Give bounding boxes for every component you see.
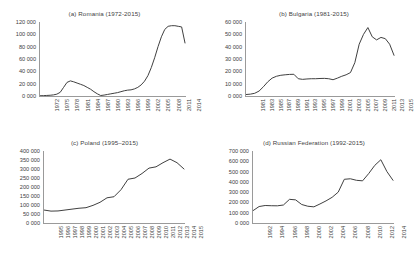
x-tick-label: 2005 bbox=[129, 226, 135, 238]
panel-bulgaria: (b) Bulgaria (1981-2015) 0 00010 00020 0… bbox=[209, 0, 419, 131]
y-tick-label: 0 000 bbox=[228, 93, 242, 99]
y-tick-label: 250 000 bbox=[20, 175, 40, 181]
y-tick-label: 40 000 bbox=[225, 44, 242, 50]
x-tick-label: 2000 bbox=[316, 226, 322, 238]
y-tick-label: 120 000 bbox=[16, 19, 36, 25]
y-tick-label: 350 000 bbox=[20, 157, 40, 163]
x-tick-label: 1999 bbox=[146, 99, 152, 111]
x-tick-label: 2011 bbox=[391, 99, 397, 111]
x-axis-line bbox=[252, 223, 394, 224]
x-tick-label: 1996 bbox=[136, 99, 142, 111]
y-tick-label: 150 000 bbox=[20, 193, 40, 199]
x-tick-label: 1995 bbox=[59, 226, 65, 238]
x-tick-label: 2009 bbox=[383, 99, 389, 111]
y-tick-label: 10 000 bbox=[225, 81, 242, 87]
x-tick-label: 1987 bbox=[287, 99, 293, 111]
y-tick-label: 0 000 bbox=[22, 93, 36, 99]
x-tick-label: 2008 bbox=[150, 226, 156, 238]
y-tick-label: 30 000 bbox=[225, 56, 242, 62]
panel-romania: (a) Romania (1972-2015) 0 00020 00040 00… bbox=[0, 0, 209, 131]
x-tick-label: 1993 bbox=[313, 99, 319, 111]
x-tick-label: 1992 bbox=[268, 226, 274, 238]
x-axis-line bbox=[39, 96, 186, 97]
x-tick-label: 2004 bbox=[341, 226, 347, 238]
x-tick-label: 1978 bbox=[75, 99, 81, 111]
x-tick-label: 1981 bbox=[85, 99, 91, 111]
x-tick-label: 1985 bbox=[278, 99, 284, 111]
x-tick-label: 1998 bbox=[304, 226, 310, 238]
x-tick-label: 2008 bbox=[365, 226, 371, 238]
x-tick-label: 2012 bbox=[178, 226, 184, 238]
panel-title-bulgaria: (b) Bulgaria (1981-2015) bbox=[209, 10, 419, 17]
x-tick-label: 1984 bbox=[95, 99, 101, 111]
x-tick-label: 2013 bbox=[400, 99, 406, 111]
y-tick-label: 0 000 bbox=[235, 220, 249, 226]
x-tick-label: 2014 bbox=[402, 226, 408, 238]
x-tick-label: 2015 bbox=[409, 99, 415, 111]
y-tick-label: 700 000 bbox=[229, 148, 249, 154]
y-tick-label: 0 000 bbox=[26, 220, 40, 226]
x-tick-label: 2000 bbox=[94, 226, 100, 238]
x-tick-label: 1975 bbox=[65, 99, 71, 111]
plot-area-poland: 0 00050 000100 000150 000200 000250 0003… bbox=[44, 151, 184, 223]
multi-panel-line-chart-figure: (a) Romania (1972-2015) 0 00020 00040 00… bbox=[0, 0, 419, 262]
x-tick-label: 2010 bbox=[164, 226, 170, 238]
x-tick-label: 2014 bbox=[196, 99, 202, 111]
x-axis-line bbox=[245, 96, 395, 97]
y-tick-label: 20 000 bbox=[19, 81, 36, 87]
x-tick-label: 1999 bbox=[87, 226, 93, 238]
x-tick-label: 2014 bbox=[192, 226, 198, 238]
x-tick-label: 1997 bbox=[330, 99, 336, 111]
panel-russian-federation: (d) Russian Federation (1992-2015) 0 000… bbox=[209, 131, 419, 262]
x-tick-label: 2015 bbox=[199, 226, 205, 238]
x-tick-label: 2007 bbox=[374, 99, 380, 111]
x-tick-label: 2013 bbox=[185, 226, 191, 238]
x-tick-label: 1983 bbox=[269, 99, 275, 111]
y-axis-line bbox=[252, 151, 253, 224]
y-tick-label: 600 000 bbox=[229, 158, 249, 164]
panel-title-romania: (a) Romania (1972-2015) bbox=[0, 10, 209, 17]
x-tick-label: 1996 bbox=[292, 226, 298, 238]
x-tick-label: 1989 bbox=[295, 99, 301, 111]
y-tick-label: 200 000 bbox=[229, 199, 249, 205]
x-tick-label: 2004 bbox=[122, 226, 128, 238]
panel-title-poland: (c) Poland (1995–2015) bbox=[0, 139, 209, 146]
x-tick-label: 1993 bbox=[125, 99, 131, 111]
x-tick-label: 2001 bbox=[348, 99, 354, 111]
series-line bbox=[40, 22, 185, 96]
x-tick-label: 2002 bbox=[329, 226, 335, 238]
y-tick-label: 300 000 bbox=[20, 166, 40, 172]
x-tick-label: 2002 bbox=[108, 226, 114, 238]
x-tick-label: 2012 bbox=[389, 226, 395, 238]
x-tick-label: 1994 bbox=[280, 226, 286, 238]
y-tick-label: 100 000 bbox=[229, 210, 249, 216]
series-line bbox=[246, 22, 394, 96]
y-axis-line bbox=[39, 22, 40, 97]
x-tick-label: 2006 bbox=[353, 226, 359, 238]
y-tick-label: 100 000 bbox=[16, 31, 36, 37]
panel-title-russian-federation: (d) Russian Federation (1992-2015) bbox=[209, 139, 419, 146]
x-tick-label: 2001 bbox=[101, 226, 107, 238]
x-tick-label: 2011 bbox=[170, 226, 176, 238]
plot-area-bulgaria: 0 00010 00020 00030 00040 00050 00060 00… bbox=[246, 22, 394, 96]
x-tick-label: 1998 bbox=[80, 226, 86, 238]
y-tick-label: 400 000 bbox=[20, 148, 40, 154]
x-tick-label: 2003 bbox=[356, 99, 362, 111]
x-tick-label: 1996 bbox=[66, 226, 72, 238]
y-axis-line bbox=[245, 22, 246, 97]
plot-area-romania: 0 00020 00040 00060 00080 000100 000120 … bbox=[40, 22, 185, 96]
panel-poland: (c) Poland (1995–2015) 0 00050 000100 00… bbox=[0, 131, 209, 262]
x-tick-label: 2006 bbox=[136, 226, 142, 238]
x-tick-label: 1972 bbox=[55, 99, 61, 111]
x-tick-label: 1990 bbox=[115, 99, 121, 111]
x-tick-label: 1995 bbox=[322, 99, 328, 111]
x-tick-label: 2002 bbox=[156, 99, 162, 111]
y-tick-label: 400 000 bbox=[229, 179, 249, 185]
y-tick-label: 80 000 bbox=[19, 44, 36, 50]
y-tick-label: 60 000 bbox=[19, 56, 36, 62]
y-axis-line bbox=[43, 151, 44, 224]
y-tick-label: 200 000 bbox=[20, 184, 40, 190]
y-tick-label: 300 000 bbox=[229, 189, 249, 195]
x-tick-label: 1987 bbox=[105, 99, 111, 111]
x-tick-label: 2003 bbox=[115, 226, 121, 238]
